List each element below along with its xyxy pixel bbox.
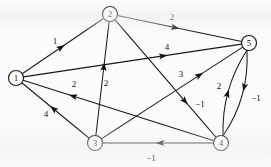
graph-canvas: 142−12432−12−1 12345 xyxy=(0,0,271,167)
graph-edge-4-to-1 xyxy=(23,80,214,140)
edge-weight-2-to-5: 2 xyxy=(170,12,175,22)
arrowhead-2-to-5 xyxy=(171,24,181,32)
nodes-layer: 12345 xyxy=(9,7,257,151)
graph-edge-3-to-5 xyxy=(101,47,242,139)
node-label-4: 4 xyxy=(219,138,224,148)
edge-weight-3-to-5: 3 xyxy=(179,69,184,79)
graph-edge-2-to-5 xyxy=(117,16,241,42)
graph-edge-1-to-5 xyxy=(23,44,241,77)
edge-weight-2-to-4: −1 xyxy=(195,99,205,109)
edge-weight-4-to-1: 2 xyxy=(72,79,77,89)
graph-node-2[interactable]: 2 xyxy=(103,7,118,22)
graph-node-3[interactable]: 3 xyxy=(88,136,103,151)
graph-node-4[interactable]: 4 xyxy=(214,136,229,151)
graph-edge-3-to-1 xyxy=(22,83,89,138)
node-label-1: 1 xyxy=(14,73,19,83)
node-label-5: 5 xyxy=(247,38,252,48)
graph-figure: 142−12432−12−1 12345 xyxy=(0,0,271,167)
arrowhead-5-to-4 xyxy=(240,83,248,93)
arrowhead-4-to-5 xyxy=(223,89,231,99)
edge-weight-1-to-2: 1 xyxy=(53,36,58,46)
arrowhead-3-to-5 xyxy=(194,70,205,80)
node-label-2: 2 xyxy=(108,9,113,19)
graph-node-5[interactable]: 5 xyxy=(242,36,257,51)
graph-node-1[interactable]: 1 xyxy=(9,71,24,86)
edge-weight-1-to-5: 4 xyxy=(165,42,170,52)
edge-weight-4-to-5: −1 xyxy=(251,93,261,103)
edge-weight-5-to-4: 2 xyxy=(217,81,222,91)
node-label-3: 3 xyxy=(93,138,98,148)
edge-weight-3-to-1: 4 xyxy=(44,109,49,119)
arrowhead-1-to-2 xyxy=(56,42,67,52)
edge-weight-4-to-3: −1 xyxy=(146,153,156,163)
edge-weight-3-to-2: 2 xyxy=(104,78,109,88)
arrowhead-4-to-1 xyxy=(68,92,78,100)
